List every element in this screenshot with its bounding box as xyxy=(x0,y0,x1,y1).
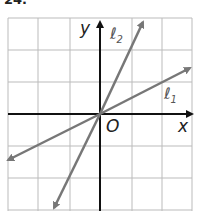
x-axis-label: x xyxy=(178,116,188,136)
line-l1-neg xyxy=(8,114,100,160)
line-l2-label: ℓ2 xyxy=(110,24,123,45)
line-l1-label: ℓ1 xyxy=(164,84,177,105)
coordinate-plane xyxy=(0,0,200,211)
line-l2-neg xyxy=(54,114,100,208)
y-axis-label: y xyxy=(80,18,90,38)
origin-label: O xyxy=(106,116,119,136)
